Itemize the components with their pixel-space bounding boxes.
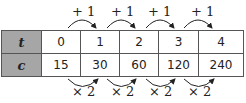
row-header: t <box>2 31 42 54</box>
table-row: t 0 1 2 3 4 <box>2 31 244 54</box>
bottom-label: × 2 <box>188 84 211 99</box>
table-cell: 240 <box>199 54 244 77</box>
table-cell: 4 <box>199 31 244 54</box>
table-cell: 30 <box>81 54 120 77</box>
row-header: c <box>2 54 42 77</box>
table-cell: 3 <box>159 31 199 54</box>
table-cell: 2 <box>120 31 159 54</box>
bottom-label: × 2 <box>72 84 95 99</box>
table-cell: 1 <box>81 31 120 54</box>
table-cell: 120 <box>159 54 199 77</box>
table-cell: 0 <box>42 31 81 54</box>
bottom-label: × 2 <box>149 84 172 99</box>
table-cell: 60 <box>120 54 159 77</box>
table-cell: 15 <box>42 54 81 77</box>
bottom-label: × 2 <box>111 84 134 99</box>
value-table: t 0 1 2 3 4 c 15 30 60 120 240 <box>1 30 244 77</box>
table-row: c 15 30 60 120 240 <box>2 54 244 77</box>
